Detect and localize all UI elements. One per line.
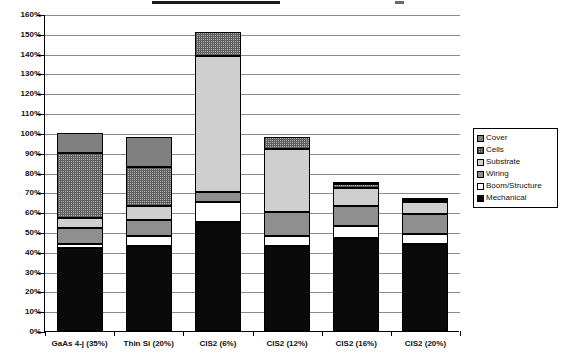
x-axis-tick bbox=[114, 331, 115, 336]
bar-segment-boom-structure bbox=[402, 234, 448, 244]
legend-swatch-icon bbox=[477, 135, 484, 142]
bar-segment-substrate bbox=[333, 188, 379, 206]
bar-segment-mechanical bbox=[126, 246, 172, 331]
gridline bbox=[45, 55, 460, 56]
bar-segment-cover bbox=[402, 198, 448, 200]
gridline bbox=[45, 273, 460, 274]
bar-segment-wiring bbox=[402, 214, 448, 234]
y-axis-label: 60% bbox=[1, 209, 41, 217]
x-axis-tick bbox=[45, 331, 46, 336]
bar-segment-wiring bbox=[57, 228, 103, 244]
legend-item: Substrate bbox=[477, 156, 554, 168]
stacked-bar-chart: 0%10%20%30%40%50%60%70%80%90%100%110%120… bbox=[0, 0, 563, 360]
y-axis-label: 100% bbox=[1, 130, 41, 138]
y-axis-label: 120% bbox=[1, 90, 41, 98]
bar-segment-wiring bbox=[126, 220, 172, 236]
bar-segment-substrate bbox=[264, 149, 310, 212]
bar-segment-cells bbox=[264, 137, 310, 149]
legend-item-label: Boom/Structure bbox=[486, 182, 542, 190]
bar-column bbox=[264, 14, 310, 331]
x-axis-label: Thin Si (20%) bbox=[114, 339, 183, 348]
x-axis-tick bbox=[322, 331, 323, 336]
bar-segment-mechanical bbox=[333, 238, 379, 331]
legend-item-label: Cells bbox=[486, 146, 504, 154]
bar-segment-cells bbox=[126, 167, 172, 207]
legend-item: Wiring bbox=[477, 168, 554, 180]
bar-segment-cells bbox=[57, 153, 103, 218]
bar-segment-substrate bbox=[57, 218, 103, 228]
gridline bbox=[45, 134, 460, 135]
bar-segment-boom-structure bbox=[264, 236, 310, 246]
x-axis-tick bbox=[183, 331, 184, 336]
legend-item: Boom/Structure bbox=[477, 180, 554, 192]
bar-segment-boom-structure bbox=[126, 236, 172, 246]
gridline bbox=[45, 292, 460, 293]
bar-segment-boom-structure bbox=[57, 244, 103, 248]
bar-segment-wiring bbox=[195, 192, 241, 202]
y-axis-label: 70% bbox=[1, 189, 41, 197]
bar-segment-substrate bbox=[195, 56, 241, 193]
x-axis-tick bbox=[460, 331, 461, 336]
bar-segment-cells bbox=[402, 200, 448, 202]
bar-segment-boom-structure bbox=[195, 202, 241, 222]
y-axis-label: 0% bbox=[1, 328, 41, 336]
bar-segment-mechanical bbox=[402, 244, 448, 331]
bar-segment-mechanical bbox=[264, 246, 310, 331]
gridline bbox=[45, 213, 460, 214]
bar-segment-mechanical bbox=[57, 248, 103, 331]
bar-column bbox=[57, 14, 103, 331]
legend-swatch-icon bbox=[477, 147, 484, 154]
gridline bbox=[45, 94, 460, 95]
y-axis-label: 30% bbox=[1, 269, 41, 277]
bar-column bbox=[195, 14, 241, 331]
gridline bbox=[45, 35, 460, 36]
x-axis-label: GaAs 4-j (35%) bbox=[45, 339, 114, 348]
x-axis-label: CIS2 (6%) bbox=[183, 339, 252, 348]
gridline bbox=[45, 154, 460, 155]
y-axis-label: 10% bbox=[1, 308, 41, 316]
gridline bbox=[45, 114, 460, 115]
gridline bbox=[45, 74, 460, 75]
legend-item-label: Wiring bbox=[486, 170, 509, 178]
bar-segment-boom-structure bbox=[333, 226, 379, 238]
bar-segment-cover bbox=[333, 182, 379, 184]
legend-item: Mechanical bbox=[477, 192, 554, 204]
gridline bbox=[45, 174, 460, 175]
plot-area: 0%10%20%30%40%50%60%70%80%90%100%110%120… bbox=[44, 15, 459, 332]
y-axis-label: 140% bbox=[1, 51, 41, 59]
legend-swatch-icon bbox=[477, 183, 484, 190]
x-axis-tick bbox=[391, 331, 392, 336]
gridline bbox=[45, 253, 460, 254]
bar-segment-mechanical bbox=[195, 222, 241, 331]
gridline bbox=[45, 193, 460, 194]
x-axis-label: CIS2 (20%) bbox=[391, 339, 460, 348]
bar-segment-cover bbox=[57, 133, 103, 153]
bar-column bbox=[126, 14, 172, 331]
x-axis-label: CIS2 (12%) bbox=[253, 339, 322, 348]
bar-segment-cover bbox=[126, 137, 172, 167]
y-axis-label: 40% bbox=[1, 249, 41, 257]
y-axis-label: 160% bbox=[1, 11, 41, 19]
legend-swatch-icon bbox=[477, 159, 484, 166]
bar-segment-wiring bbox=[333, 206, 379, 226]
gridline bbox=[45, 233, 460, 234]
gridline bbox=[45, 15, 460, 16]
legend-item: Cells bbox=[477, 144, 554, 156]
y-axis-label: 130% bbox=[1, 70, 41, 78]
bar-segment-substrate bbox=[402, 202, 448, 214]
legend-item-label: Cover bbox=[486, 134, 507, 142]
chart-legend: CoverCellsSubstrateWiringBoom/StructureM… bbox=[473, 128, 558, 208]
y-axis-label: 150% bbox=[1, 31, 41, 39]
bar-segment-cells bbox=[333, 184, 379, 188]
y-axis-label: 50% bbox=[1, 229, 41, 237]
legend-item: Cover bbox=[477, 132, 554, 144]
bar-segment-substrate bbox=[126, 206, 172, 220]
y-axis-label: 20% bbox=[1, 288, 41, 296]
legend-swatch-icon bbox=[477, 171, 484, 178]
bar-column bbox=[333, 14, 379, 331]
x-axis-label: CIS2 (16%) bbox=[322, 339, 391, 348]
y-axis-label: 90% bbox=[1, 150, 41, 158]
bar-segment-wiring bbox=[264, 212, 310, 236]
legend-item-label: Substrate bbox=[486, 158, 520, 166]
x-axis-tick bbox=[253, 331, 254, 336]
